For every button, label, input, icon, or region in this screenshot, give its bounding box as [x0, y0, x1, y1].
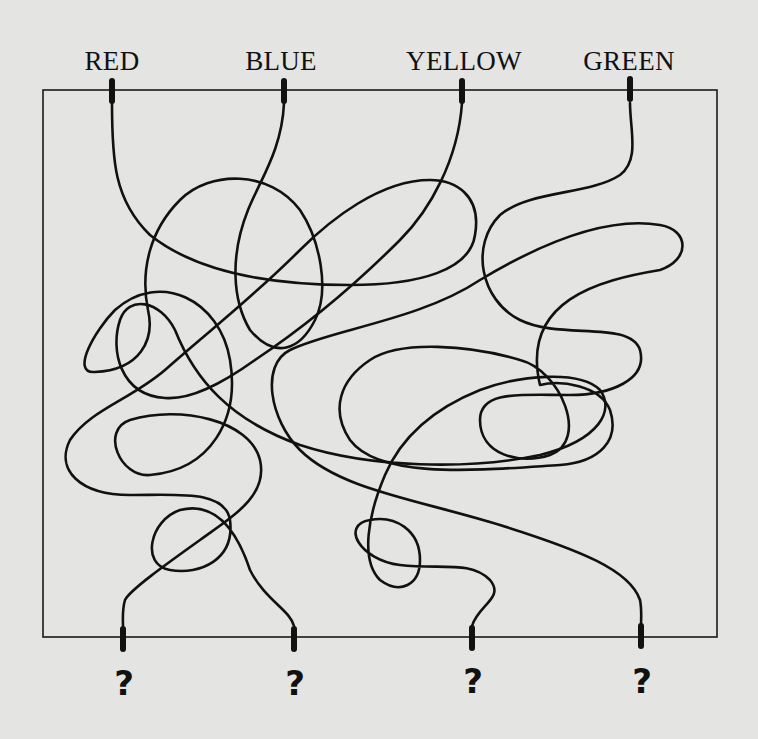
label-blue: BLUE [245, 46, 317, 76]
question-mark-3: ? [463, 661, 483, 701]
wires [66, 103, 683, 626]
wire-puzzle: RED BLUE YELLOW GREEN [0, 0, 758, 739]
puzzle-canvas: RED BLUE YELLOW GREEN [0, 0, 758, 739]
question-mark-4: ? [632, 661, 652, 701]
question-mark-2: ? [285, 663, 305, 703]
bottom-labels: ? ? ? ? [114, 661, 652, 703]
label-red: RED [85, 46, 140, 76]
label-yellow: YELLOW [406, 46, 522, 76]
label-green: GREEN [583, 46, 675, 76]
question-mark-1: ? [114, 663, 134, 703]
top-labels: RED BLUE YELLOW GREEN [85, 46, 675, 76]
wire-green [272, 103, 683, 626]
puzzle-frame [43, 90, 717, 637]
